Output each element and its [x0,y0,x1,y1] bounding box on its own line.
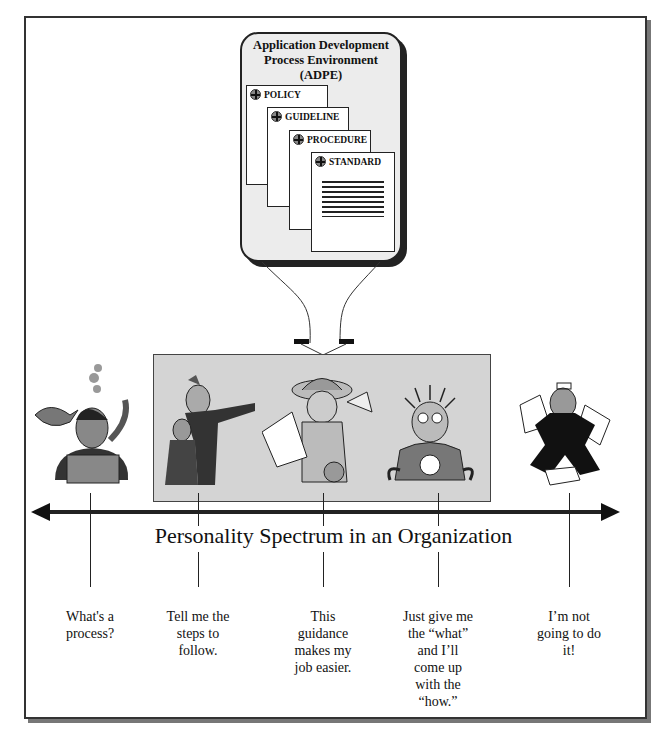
caption-line: follow. [143,642,253,659]
caption-line: What's a [35,608,145,625]
caption-persona-3: This guidance makes my job easier. [268,608,378,676]
tick-persona-3-upper [323,493,324,526]
caption-line: makes my [268,642,378,659]
tick-persona-5 [569,493,570,587]
caption-line: “how.” [383,693,493,710]
caption-persona-5: I’m not going to do it! [514,608,624,659]
tick-persona-4-upper [438,493,439,526]
spectrum-title: Personality Spectrum in an Organization [24,523,643,549]
tick-persona-2-upper [198,493,199,526]
caption-line: come up [383,659,493,676]
caption-line: going to do [514,625,624,642]
caption-line: guidance [268,625,378,642]
caption-line: steps to [143,625,253,642]
caption-line: process? [35,625,145,642]
caption-persona-4: Just give me the “what” and I’ll come up… [383,608,493,710]
tick-persona-1 [90,493,91,587]
caption-line: This [268,608,378,625]
caption-line: it! [514,642,624,659]
tick-persona-3-lower [323,552,324,587]
caption-line: Just give me [383,608,493,625]
caption-persona-2: Tell me the steps to follow. [143,608,253,659]
tick-persona-2-lower [198,552,199,587]
caption-line: with the [383,676,493,693]
caption-line: I’m not [514,608,624,625]
tick-persona-4-lower [438,552,439,587]
caption-line: job easier. [268,659,378,676]
caption-persona-1: What's a process? [35,608,145,642]
caption-line: and I’ll [383,642,493,659]
caption-line: the “what” [383,625,493,642]
caption-line: Tell me the [143,608,253,625]
